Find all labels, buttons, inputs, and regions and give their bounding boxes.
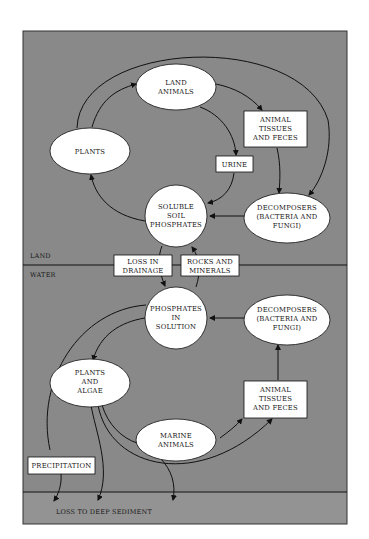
- node-urine: URINE: [216, 156, 253, 172]
- svg-text:AND FECES: AND FECES: [252, 134, 298, 142]
- node-soluble-soil-phosphates: SOLUBLE SOIL PHOSPHATES: [145, 185, 207, 247]
- svg-text:ANIMALS: ANIMALS: [157, 441, 194, 449]
- node-land-decomposers: DECOMPOSERS (BACTERIA AND FUNGI): [244, 193, 330, 243]
- node-marine-animals: MARINE ANIMALS: [136, 419, 216, 461]
- svg-text:PHOSPHATES: PHOSPHATES: [150, 221, 202, 229]
- svg-text:AND: AND: [81, 378, 99, 386]
- land-label: LAND: [30, 252, 51, 260]
- node-plants-and-algae: PLANTS AND ALGAE: [50, 359, 130, 407]
- svg-text:DECOMPOSERS: DECOMPOSERS: [257, 204, 317, 212]
- node-water-decomposers: DECOMPOSERS (BACTERIA AND FUNGI): [244, 295, 330, 345]
- svg-text:URINE: URINE: [222, 161, 247, 169]
- svg-text:FUNGI): FUNGI): [273, 222, 302, 230]
- svg-text:LAND: LAND: [165, 79, 187, 87]
- svg-text:LOSS IN: LOSS IN: [127, 258, 158, 266]
- svg-text:SOLUBLE: SOLUBLE: [158, 203, 194, 211]
- svg-text:MARINE: MARINE: [160, 432, 192, 440]
- svg-text:SOLUTION: SOLUTION: [156, 323, 196, 331]
- water-label: WATER: [30, 271, 57, 279]
- svg-text:DRAINAGE: DRAINAGE: [122, 267, 163, 275]
- node-land-animal-tissues: ANIMAL TISSUES AND FECES: [244, 111, 307, 147]
- svg-text:(BACTERIA AND: (BACTERIA AND: [256, 315, 317, 323]
- svg-text:TISSUES: TISSUES: [259, 125, 292, 133]
- svg-text:FUNGI): FUNGI): [273, 324, 302, 332]
- svg-text:ANIMAL: ANIMAL: [259, 116, 291, 124]
- node-water-animal-tissues: ANIMAL TISSUES AND FECES: [244, 381, 307, 418]
- svg-text:PLANTS: PLANTS: [75, 369, 105, 377]
- svg-text:ANIMALS: ANIMALS: [157, 88, 194, 96]
- svg-text:IN: IN: [171, 314, 180, 322]
- svg-text:PHOSPHATES: PHOSPHATES: [150, 305, 202, 313]
- node-land-animals: LAND ANIMALS: [136, 64, 216, 110]
- svg-text:MINERALS: MINERALS: [189, 267, 230, 275]
- svg-text:ANIMAL: ANIMAL: [259, 386, 291, 394]
- node-rocks-and-minerals: ROCKS AND MINERALS: [181, 255, 239, 276]
- svg-text:SOIL: SOIL: [167, 212, 186, 220]
- node-loss-in-drainage: LOSS IN DRAINAGE: [114, 255, 172, 276]
- svg-text:ROCKS AND: ROCKS AND: [187, 258, 233, 266]
- svg-text:DECOMPOSERS: DECOMPOSERS: [257, 306, 317, 314]
- svg-text:AND FECES: AND FECES: [252, 404, 298, 412]
- sediment-label: LOSS TO DEEP SEDIMENT: [56, 508, 152, 516]
- svg-text:PLANTS: PLANTS: [75, 148, 105, 156]
- svg-text:ALGAE: ALGAE: [76, 387, 103, 395]
- svg-text:TISSUES: TISSUES: [259, 395, 292, 403]
- node-phosphates-in-solution: PHOSPHATES IN SOLUTION: [145, 287, 207, 349]
- svg-text:PRECIPITATION: PRECIPITATION: [32, 462, 92, 470]
- svg-text:(BACTERIA AND: (BACTERIA AND: [256, 213, 317, 221]
- node-precipitation: PRECIPITATION: [28, 457, 95, 474]
- node-plants: PLANTS: [50, 128, 130, 174]
- phosphorus-cycle-diagram: LAND WATER LOSS TO DEEP SEDIMENT: [0, 0, 369, 539]
